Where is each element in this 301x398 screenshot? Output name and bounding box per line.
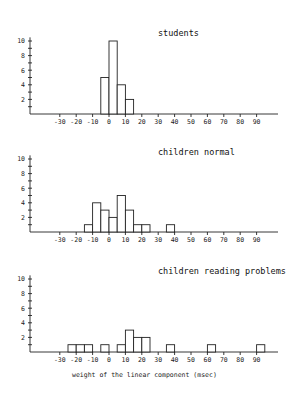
y-tick-label: 4 bbox=[21, 199, 25, 207]
histogram-bar bbox=[125, 210, 133, 232]
panel-title: children normal bbox=[158, 147, 235, 157]
x-tick-label: -20 bbox=[70, 356, 82, 364]
x-tick-label: 50 bbox=[187, 356, 195, 364]
x-tick-label: 80 bbox=[236, 356, 244, 364]
histogram-bar bbox=[109, 217, 117, 232]
y-tick-label: 6 bbox=[21, 67, 25, 75]
x-tick-label: 70 bbox=[220, 236, 228, 244]
y-tick-label: 6 bbox=[21, 185, 25, 193]
x-tick-label: -10 bbox=[87, 236, 99, 244]
x-tick-label: 30 bbox=[154, 236, 162, 244]
histogram-bar bbox=[117, 196, 125, 233]
x-tick-label: 10 bbox=[121, 118, 129, 126]
x-tick-label: 60 bbox=[203, 236, 211, 244]
y-tick-label: 4 bbox=[21, 319, 25, 327]
x-tick-label: 90 bbox=[253, 236, 261, 244]
histogram-bar bbox=[101, 210, 109, 232]
histogram-bar bbox=[93, 203, 101, 232]
x-tick-label: 0 bbox=[107, 356, 111, 364]
x-tick-label: -20 bbox=[70, 118, 82, 126]
y-tick-label: 8 bbox=[21, 52, 25, 60]
x-tick-label: 90 bbox=[253, 118, 261, 126]
x-tick-label: -30 bbox=[54, 236, 66, 244]
histogram-bar bbox=[134, 337, 142, 352]
y-tick-label: 2 bbox=[21, 334, 25, 342]
x-tick-label: -30 bbox=[54, 118, 66, 126]
x-tick-label: 30 bbox=[154, 356, 162, 364]
x-tick-label: 80 bbox=[236, 236, 244, 244]
x-tick-label: 70 bbox=[220, 356, 228, 364]
x-tick-label: 60 bbox=[203, 118, 211, 126]
x-tick-label: 20 bbox=[138, 356, 146, 364]
x-tick-label: 10 bbox=[121, 236, 129, 244]
histogram-bar bbox=[117, 85, 125, 114]
x-tick-label: 40 bbox=[171, 118, 179, 126]
panel-children-reading-problems: children reading problems 246810-30-20-1… bbox=[17, 266, 286, 364]
x-tick-label: 0 bbox=[107, 118, 111, 126]
y-tick-label: 4 bbox=[21, 81, 25, 89]
panel-title: children reading problems bbox=[158, 266, 286, 276]
histogram-bar bbox=[84, 345, 92, 352]
x-tick-label: 60 bbox=[203, 356, 211, 364]
x-tick-label: -10 bbox=[87, 356, 99, 364]
y-tick-label: 10 bbox=[17, 155, 25, 163]
histogram-bar bbox=[109, 41, 117, 114]
panel-children-normal: children normal 246810-30-20-10010203040… bbox=[17, 147, 278, 244]
histogram-bar bbox=[134, 225, 142, 232]
x-tick-label: 80 bbox=[236, 118, 244, 126]
y-tick-label: 2 bbox=[21, 96, 25, 104]
x-tick-label: -20 bbox=[70, 236, 82, 244]
x-tick-label: 50 bbox=[187, 118, 195, 126]
y-tick-label: 2 bbox=[21, 214, 25, 222]
x-tick-label: 40 bbox=[171, 236, 179, 244]
histogram-bar bbox=[68, 345, 76, 352]
x-tick-label: 0 bbox=[107, 236, 111, 244]
histogram-bar bbox=[166, 345, 174, 352]
panel-title: students bbox=[158, 28, 199, 38]
histogram-bar bbox=[166, 225, 174, 232]
x-tick-label: -30 bbox=[54, 356, 66, 364]
x-axis-label: weight of the linear component (msec) bbox=[72, 371, 217, 379]
histogram-figure: students 246810-30-20-100102030405060708… bbox=[0, 0, 301, 398]
histogram-bar bbox=[84, 225, 92, 232]
x-tick-label: 20 bbox=[138, 118, 146, 126]
y-tick-label: 6 bbox=[21, 305, 25, 313]
histogram-bar bbox=[101, 78, 109, 115]
histogram-bar bbox=[101, 345, 109, 352]
x-tick-label: 90 bbox=[253, 356, 261, 364]
histogram-bar bbox=[142, 225, 150, 232]
y-tick-label: 8 bbox=[21, 170, 25, 178]
histogram-bar bbox=[142, 337, 150, 352]
x-tick-label: 70 bbox=[220, 118, 228, 126]
x-tick-label: 20 bbox=[138, 236, 146, 244]
histogram-bar bbox=[207, 345, 215, 352]
y-tick-label: 10 bbox=[17, 37, 25, 45]
x-tick-label: 30 bbox=[154, 118, 162, 126]
histogram-bar bbox=[117, 345, 125, 352]
x-tick-label: -10 bbox=[87, 118, 99, 126]
x-tick-label: 40 bbox=[171, 356, 179, 364]
histogram-bar bbox=[76, 345, 84, 352]
histogram-bar bbox=[125, 99, 133, 114]
histogram-bar bbox=[257, 345, 265, 352]
x-tick-label: 10 bbox=[121, 356, 129, 364]
y-tick-label: 10 bbox=[17, 275, 25, 283]
y-tick-label: 8 bbox=[21, 290, 25, 298]
panel-students: students 246810-30-20-100102030405060708… bbox=[17, 28, 278, 126]
x-tick-label: 50 bbox=[187, 236, 195, 244]
histogram-bar bbox=[125, 330, 133, 352]
